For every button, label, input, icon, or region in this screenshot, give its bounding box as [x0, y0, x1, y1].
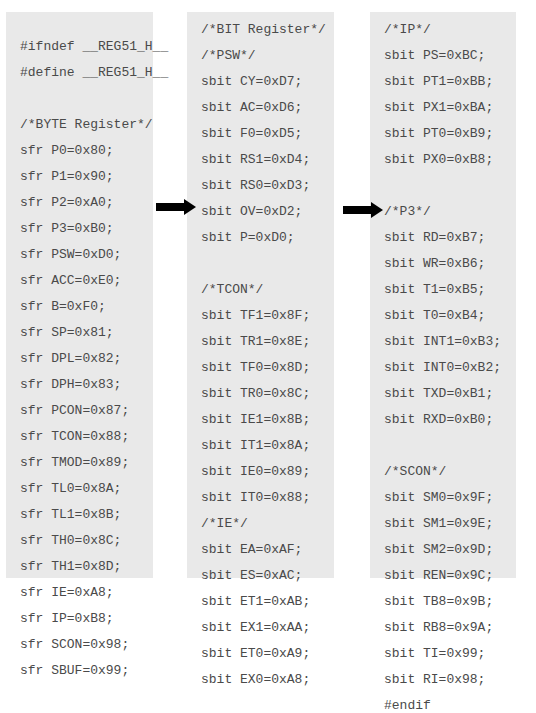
code-line: sfr TL1=0x8B;: [20, 502, 153, 528]
code-line: sbit IT0=0x88;: [201, 485, 334, 511]
code-line: sfr P0=0x80;: [20, 138, 153, 164]
code-line: sbit TI=0x99;: [384, 641, 516, 667]
code-line: sfr DPL=0x82;: [20, 346, 153, 372]
code-line: #endif: [384, 693, 516, 713]
code-line: sbit T0=0xB4;: [384, 303, 516, 329]
code-line: /*P3*/: [384, 199, 516, 225]
code-panel-left: #ifndef __REG51_H__#define __REG51_H__/*…: [6, 12, 153, 578]
code-line: /*IP*/: [384, 17, 516, 43]
code-line: sfr P1=0x90;: [20, 164, 153, 190]
code-line: sbit REN=0x9C;: [384, 563, 516, 589]
blank-line: [20, 86, 153, 112]
code-line: sbit RS0=0xD3;: [201, 173, 334, 199]
code-line: sfr SCON=0x98;: [20, 632, 153, 658]
code-line: sbit EX1=0xAA;: [201, 615, 334, 641]
code-line: sbit ES=0xAC;: [201, 563, 334, 589]
code-line: sbit PX0=0xB8;: [384, 147, 516, 173]
code-line: /*SCON*/: [384, 459, 516, 485]
code-line: sfr DPH=0x83;: [20, 372, 153, 398]
code-line: sbit RS1=0xD4;: [201, 147, 334, 173]
code-line: sbit RXD=0xB0;: [384, 407, 516, 433]
code-line: sfr P2=0xA0;: [20, 190, 153, 216]
code-line: sbit EA=0xAF;: [201, 537, 334, 563]
blank-line: [384, 173, 516, 199]
code-line: sbit ET1=0xAB;: [201, 589, 334, 615]
code-line: sbit TF0=0x8D;: [201, 355, 334, 381]
code-line: #ifndef __REG51_H__: [20, 34, 153, 60]
code-line: sbit RB8=0x9A;: [384, 615, 516, 641]
code-line: sbit IT1=0x8A;: [201, 433, 334, 459]
code-line: sbit EX0=0xA8;: [201, 667, 334, 693]
code-line: sfr IP=0xB8;: [20, 606, 153, 632]
code-line: sbit PT1=0xBB;: [384, 69, 516, 95]
code-line: sbit INT0=0xB2;: [384, 355, 516, 381]
code-line: sbit SM1=0x9E;: [384, 511, 516, 537]
code-line: sfr TCON=0x88;: [20, 424, 153, 450]
code-line: sfr P3=0xB0;: [20, 216, 153, 242]
code-line: sfr PSW=0xD0;: [20, 242, 153, 268]
code-line: sbit RI=0x98;: [384, 667, 516, 693]
code-panel-right: /*IP*/sbit PS=0xBC;sbit PT1=0xBB;sbit PX…: [370, 12, 516, 578]
code-line: sbit ET0=0xA9;: [201, 641, 334, 667]
code-line: sfr SP=0x81;: [20, 320, 153, 346]
code-line: sbit TXD=0xB1;: [384, 381, 516, 407]
code-line: sbit P=0xD0;: [201, 225, 334, 251]
code-line: sbit AC=0xD6;: [201, 95, 334, 121]
code-line: sbit PT0=0xB9;: [384, 121, 516, 147]
code-line: sbit TR1=0x8E;: [201, 329, 334, 355]
code-line: /*BIT Register*/: [201, 17, 334, 43]
code-line: sbit TR0=0x8C;: [201, 381, 334, 407]
code-line: /*IE*/: [201, 511, 334, 537]
code-line: sfr B=0xF0;: [20, 294, 153, 320]
code-panel-middle: /*BIT Register*//*PSW*/sbit CY=0xD7;sbit…: [187, 12, 334, 578]
code-line: sbit SM0=0x9F;: [384, 485, 516, 511]
code-line: sbit OV=0xD2;: [201, 199, 334, 225]
code-line: sbit PS=0xBC;: [384, 43, 516, 69]
code-line: /*PSW*/: [201, 43, 334, 69]
code-line: /*TCON*/: [201, 277, 334, 303]
code-line: sbit IE0=0x89;: [201, 459, 334, 485]
code-line: sbit WR=0xB6;: [384, 251, 516, 277]
code-line: sfr PCON=0x87;: [20, 398, 153, 424]
code-line: sfr ACC=0xE0;: [20, 268, 153, 294]
code-line: sfr IE=0xA8;: [20, 580, 153, 606]
code-line: sbit T1=0xB5;: [384, 277, 516, 303]
code-line: sbit TB8=0x9B;: [384, 589, 516, 615]
code-line: sfr TH0=0x8C;: [20, 528, 153, 554]
blank-line: [201, 251, 334, 277]
blank-line: [384, 433, 516, 459]
code-line: /*BYTE Register*/: [20, 112, 153, 138]
code-line: sbit F0=0xD5;: [201, 121, 334, 147]
code-line: sbit CY=0xD7;: [201, 69, 334, 95]
code-line: sbit TF1=0x8F;: [201, 303, 334, 329]
code-line: sfr TL0=0x8A;: [20, 476, 153, 502]
code-line: sbit INT1=0xB3;: [384, 329, 516, 355]
code-line: sfr TH1=0x8D;: [20, 554, 153, 580]
code-line: sbit PX1=0xBA;: [384, 95, 516, 121]
right-arrow-icon: [156, 199, 196, 215]
code-line: sbit RD=0xB7;: [384, 225, 516, 251]
code-line: sfr SBUF=0x99;: [20, 658, 153, 684]
code-line: sfr TMOD=0x89;: [20, 450, 153, 476]
code-line: sbit IE1=0x8B;: [201, 407, 334, 433]
code-line: #define __REG51_H__: [20, 60, 153, 86]
right-arrow-icon: [343, 202, 383, 218]
code-line: sbit SM2=0x9D;: [384, 537, 516, 563]
